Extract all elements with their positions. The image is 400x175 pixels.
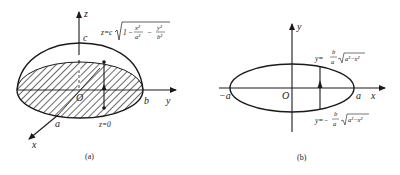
y-axis-label-b: y — [296, 21, 302, 32]
point-b-label: b — [144, 95, 149, 106]
origin-label-b: O — [282, 90, 289, 101]
term1-denominator: a² — [135, 33, 141, 40]
point-c-label: c — [83, 32, 88, 43]
a-label-b: a — [356, 90, 361, 101]
surface-equation: z=c 1 − x² a² − y² b² — [100, 22, 170, 40]
upper-radicand: a²−x² — [345, 55, 360, 62]
upper-numerator: b — [332, 48, 336, 55]
caption-b: (b) — [297, 153, 307, 162]
segment-top-point — [102, 60, 106, 64]
upper-lhs: y= — [314, 54, 323, 63]
figure-b-ellipse: y x −a a O (b) y= b a a²−x² y=− b a a²−x… — [219, 21, 385, 162]
segment-bottom-point — [102, 106, 106, 110]
term1-numerator: x² — [134, 24, 141, 31]
origin-label: O — [76, 92, 83, 103]
figure-canvas: z c b y a x O z=0 (a) z=c 1 − x² a² − y²… — [0, 0, 400, 175]
y-axis-label: y — [165, 95, 171, 106]
lower-denominator: a — [333, 120, 336, 127]
term2-denominator: b² — [157, 33, 163, 40]
neg-a-label: −a — [219, 90, 231, 101]
caption-a: (a) — [85, 152, 94, 161]
segment-arrow-b-icon — [318, 80, 323, 88]
equation-lhs: z=c — [100, 28, 113, 37]
lower-lhs: y=− — [314, 116, 328, 125]
base-plane-label: z=0 — [98, 120, 111, 129]
lower-radicand: a²−x² — [348, 116, 363, 123]
minus-2: − — [147, 28, 152, 37]
lower-curve-equation: y=− b a a²−x² — [314, 110, 369, 127]
minus-1: − — [128, 28, 133, 37]
x-axis — [29, 115, 58, 139]
x-axis-label: x — [31, 139, 37, 150]
term2-numerator: y² — [156, 24, 163, 31]
z-axis-label: z — [83, 8, 88, 19]
lower-numerator: b — [334, 110, 338, 117]
radicand-one: 1 — [123, 28, 127, 37]
figure-a-ellipsoid: z c b y a x O z=0 (a) z=c 1 − x² a² − y²… — [17, 8, 176, 161]
upper-curve-equation: y= b a a²−x² — [314, 48, 365, 65]
x-axis-label-b: x — [370, 90, 376, 101]
point-a-label: a — [55, 118, 60, 129]
upper-denominator: a — [331, 58, 334, 65]
